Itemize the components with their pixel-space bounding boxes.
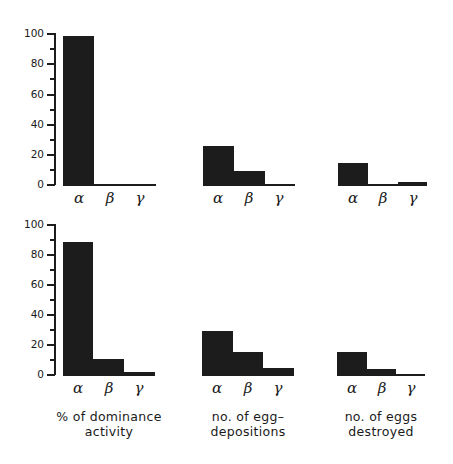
- x-axis-line: [337, 375, 425, 377]
- x-label-beta: β: [368, 190, 398, 206]
- tick-label-20: 20: [18, 148, 44, 160]
- minor-tick: [50, 269, 55, 271]
- panel-row2-eggs-destroyed: [337, 224, 425, 375]
- x-axis-line: [338, 185, 427, 187]
- bar-alpha: [337, 352, 367, 376]
- tick-label-80: 80: [18, 57, 44, 69]
- tick-label-0: 0: [18, 178, 44, 190]
- bar-alpha: [203, 146, 234, 186]
- tick-label-100: 100: [18, 218, 44, 230]
- tick-label-20: 20: [18, 338, 44, 350]
- minor-tick: [50, 359, 55, 361]
- bar-alpha: [338, 163, 368, 185]
- bar-alpha: [202, 331, 233, 375]
- tick-40: [47, 314, 55, 316]
- x-label-beta: β: [94, 380, 124, 396]
- panel-row2-dominance: [63, 224, 155, 375]
- tick-0: [47, 184, 55, 186]
- x-axis-line: [203, 185, 295, 187]
- tick-60: [47, 94, 55, 96]
- x-label-gamma: γ: [124, 380, 154, 396]
- tick-label-60: 60: [18, 88, 44, 100]
- bar-beta: [233, 352, 263, 375]
- minor-tick: [50, 299, 55, 301]
- tick-label-40: 40: [18, 118, 44, 130]
- tick-80: [47, 254, 55, 256]
- tick-20: [47, 344, 55, 346]
- x-label-gamma: γ: [263, 380, 293, 396]
- x-label-beta: β: [233, 380, 263, 396]
- x-axis-line: [63, 375, 155, 377]
- bar-beta: [234, 171, 265, 186]
- bar-alpha: [63, 242, 93, 375]
- tick-60: [47, 284, 55, 286]
- x-axis-line: [202, 375, 294, 377]
- x-label-gamma: γ: [398, 190, 428, 206]
- x-label-beta: β: [367, 380, 397, 396]
- tick-80: [47, 63, 55, 65]
- caption-line: activity: [29, 424, 189, 439]
- panel-row2-egg-depositions: [202, 224, 294, 375]
- x-label-beta: β: [95, 190, 125, 206]
- minor-tick: [50, 239, 55, 241]
- tick-40: [47, 124, 55, 126]
- x-axis-line: [63, 185, 156, 187]
- panel-row1-eggs-destroyed: [338, 33, 427, 185]
- minor-tick: [50, 329, 55, 331]
- x-label-gamma: γ: [125, 190, 155, 206]
- tick-label-0: 0: [18, 368, 44, 380]
- tick-label-60: 60: [18, 278, 44, 290]
- bar-beta: [93, 359, 124, 376]
- tick-100: [47, 224, 55, 226]
- tick-label-40: 40: [18, 308, 44, 320]
- panel-row1-egg-depositions: [203, 33, 295, 185]
- minor-tick: [50, 139, 55, 141]
- caption-line: % of dominance: [29, 409, 189, 424]
- tick-100: [47, 33, 55, 35]
- x-label-alpha: α: [338, 190, 368, 206]
- bar-alpha: [63, 36, 94, 185]
- minor-tick: [50, 169, 55, 171]
- panel-row1-dominance: [63, 33, 156, 185]
- minor-tick: [50, 78, 55, 80]
- x-label-alpha: α: [64, 190, 94, 206]
- caption-eggs-destroyed: no. of eggs destroyed: [301, 409, 453, 439]
- x-label-alpha: α: [203, 190, 233, 206]
- minor-tick: [50, 48, 55, 50]
- tick-label-80: 80: [18, 248, 44, 260]
- caption-line: no. of eggs: [301, 409, 453, 424]
- caption-line: destroyed: [301, 424, 453, 439]
- x-label-alpha: α: [202, 380, 232, 396]
- minor-tick: [50, 109, 55, 111]
- x-label-alpha: α: [63, 380, 93, 396]
- tick-0: [47, 374, 55, 376]
- x-label-gamma: γ: [264, 190, 294, 206]
- x-label-alpha: α: [337, 380, 367, 396]
- caption-dominance-activity: % of dominance activity: [29, 409, 189, 439]
- x-label-beta: β: [234, 190, 264, 206]
- tick-label-100: 100: [18, 27, 44, 39]
- x-label-gamma: γ: [396, 380, 426, 396]
- tick-20: [47, 154, 55, 156]
